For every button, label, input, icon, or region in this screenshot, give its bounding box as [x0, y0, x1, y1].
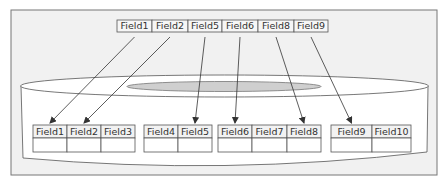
source-field: Field1	[117, 20, 152, 32]
target-table: Field6Field7Field8	[218, 125, 321, 152]
source-field: Field2	[152, 20, 188, 32]
source-field-label: Field8	[262, 20, 290, 31]
table-header-label: Field7	[256, 126, 284, 137]
source-field: Field6	[222, 20, 258, 32]
data-mapping-diagram: Field1Field2Field5Field6Field8Field9 Fie…	[0, 0, 446, 184]
source-field: Field9	[294, 20, 328, 32]
target-table: Field1Field2Field3	[33, 125, 135, 152]
table-header-label: Field10	[374, 126, 408, 137]
table-data-cell	[67, 138, 101, 152]
table-data-cell	[287, 138, 321, 152]
table-header-label: Field5	[181, 126, 209, 137]
table-header-label: Field1	[36, 126, 64, 137]
table-data-cell	[331, 138, 372, 152]
target-table: Field9Field10	[331, 125, 411, 152]
source-field-label: Field6	[226, 20, 254, 31]
table-header-label: Field3	[104, 126, 132, 137]
table-data-cell	[372, 138, 411, 152]
table-header-label: Field9	[338, 126, 366, 137]
table-data-cell	[252, 138, 287, 152]
source-field: Field8	[258, 20, 294, 32]
table-data-cell	[33, 138, 67, 152]
table-header-label: Field2	[70, 126, 98, 137]
source-field-label: Field2	[156, 20, 184, 31]
table-header-label: Field4	[147, 126, 175, 137]
table-data-cell	[144, 138, 178, 152]
source-record: Field1Field2Field5Field6Field8Field9	[117, 20, 328, 32]
table-data-cell	[218, 138, 252, 152]
source-field: Field5	[188, 20, 222, 32]
source-field-label: Field9	[297, 20, 325, 31]
table-data-cell	[101, 138, 135, 152]
table-data-cell	[178, 138, 212, 152]
target-tables: Field1Field2Field3Field4Field5Field6Fiel…	[33, 125, 411, 152]
table-header-label: Field6	[221, 126, 249, 137]
source-field-label: Field5	[191, 20, 219, 31]
source-field-label: Field1	[121, 20, 149, 31]
target-table: Field4Field5	[144, 125, 212, 152]
table-header-label: Field8	[290, 126, 318, 137]
